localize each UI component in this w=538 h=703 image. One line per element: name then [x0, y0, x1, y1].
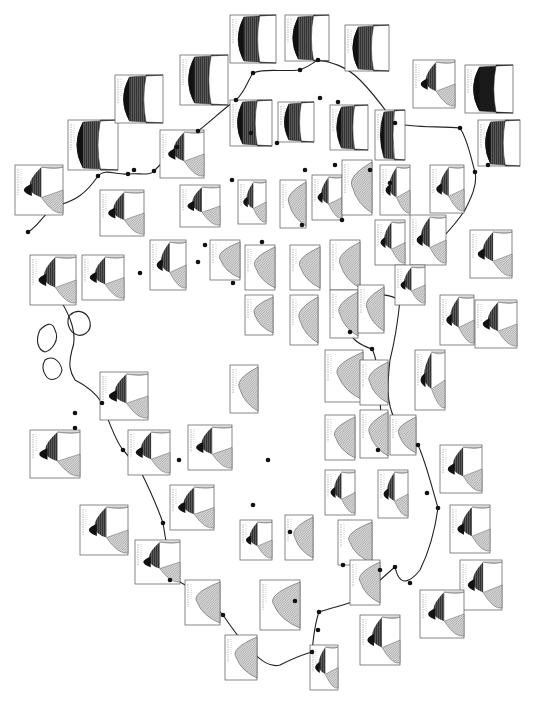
climate-diagram: [280, 180, 306, 228]
climate-diagram: [478, 120, 520, 166]
climate-diagram: [338, 520, 372, 565]
station-dot: [473, 170, 478, 175]
station-dot: [196, 260, 201, 265]
climate-diagram: [330, 105, 368, 150]
station-dot: [132, 168, 137, 173]
climate-diagram: [290, 295, 318, 345]
climate-diagram: [430, 165, 464, 213]
climate-diagram: [15, 165, 63, 215]
station-dot: [121, 448, 126, 453]
station-dot: [425, 491, 430, 496]
climate-diagram: [440, 445, 482, 493]
station-dot: [436, 506, 441, 511]
climate-diagram: [360, 410, 388, 458]
climate-diagram: [475, 300, 517, 348]
station-dot: [230, 178, 235, 183]
station-dot: [317, 610, 322, 615]
station-dot: [73, 426, 78, 431]
station-dot: [378, 568, 383, 573]
station-dot: [348, 330, 353, 335]
climate-diagram: [115, 75, 163, 123]
climate-diagram: [135, 540, 180, 584]
station-dot: [260, 240, 265, 245]
climate-diagram: [170, 485, 214, 530]
climate-diagram: [395, 265, 425, 305]
island-outline: [43, 358, 62, 379]
station-dot: [275, 141, 280, 146]
climate-diagram: [245, 245, 275, 290]
station-dot: [203, 243, 208, 248]
climate-diagram: [260, 580, 300, 630]
climate-diagram: [325, 470, 355, 515]
station-dot: [303, 168, 308, 173]
climate-diagram: [128, 430, 170, 475]
climate-diagram: [360, 360, 388, 405]
climate-diagram: [278, 102, 314, 142]
climate-diagram: [82, 255, 124, 300]
climate-diagram: [465, 65, 513, 113]
climate-diagram: [30, 430, 80, 478]
climate-diagram: [68, 120, 118, 170]
climate-diagram: [100, 372, 148, 420]
station-dot: [486, 163, 491, 168]
climate-diagram: [440, 295, 474, 345]
climate-diagram: [325, 350, 363, 402]
station-dot: [161, 521, 166, 526]
climate-diagram: [350, 560, 380, 605]
climate-diagram: [180, 55, 228, 105]
climate-diagram: [378, 470, 408, 518]
climate-diagram: [80, 505, 128, 555]
climate-diagram: [225, 635, 257, 680]
climate-diagram: [345, 25, 389, 71]
station-dot: [393, 565, 398, 570]
station-dot: [266, 458, 271, 463]
station-dot: [300, 223, 305, 228]
climate-diagram: [450, 505, 490, 553]
station-dot: [388, 181, 393, 186]
climate-diagram: [375, 220, 405, 265]
climate-diagram: [375, 110, 405, 160]
station-dot: [376, 448, 381, 453]
station-dot: [458, 126, 463, 131]
station-dot: [100, 401, 105, 406]
climate-diagram: [330, 240, 360, 290]
station-dot: [318, 96, 323, 101]
station-dot: [221, 613, 226, 618]
station-dot: [341, 563, 346, 568]
climate-diagram: [285, 515, 313, 560]
station-dot: [336, 100, 341, 105]
station-dot: [96, 174, 101, 179]
station-dot: [73, 411, 78, 416]
climate-diagram: [380, 165, 410, 215]
station-dot: [251, 71, 256, 76]
climate-diagram: [245, 295, 273, 335]
station-dot: [251, 503, 256, 508]
station-dot: [177, 458, 182, 463]
climate-diagram: [160, 130, 204, 178]
climate-diagram: [413, 60, 455, 108]
climate-diagram: [410, 215, 446, 265]
station-dot: [138, 271, 143, 276]
climate-diagram: [420, 590, 464, 638]
station-dot: [298, 68, 303, 73]
station-dot: [26, 230, 31, 235]
station-dot: [249, 131, 254, 136]
station-dot: [175, 145, 180, 150]
station-dot: [152, 169, 157, 174]
station-dot: [126, 172, 131, 177]
climate-diagram: [415, 350, 445, 410]
climate-diagram: [150, 240, 186, 290]
station-dot: [196, 129, 201, 134]
climate-diagram: [325, 415, 355, 460]
island-outline: [38, 324, 57, 352]
station-dot: [234, 98, 239, 103]
climate-diagram: [330, 290, 358, 338]
climate-diagram: [30, 255, 76, 305]
climate-diagram-map: [0, 0, 538, 703]
climate-diagrams: [15, 15, 520, 690]
climate-diagram: [470, 230, 512, 278]
climate-diagram: [230, 365, 258, 413]
climate-diagram: [180, 185, 220, 227]
station-dot: [231, 281, 236, 286]
station-dot: [316, 58, 321, 63]
